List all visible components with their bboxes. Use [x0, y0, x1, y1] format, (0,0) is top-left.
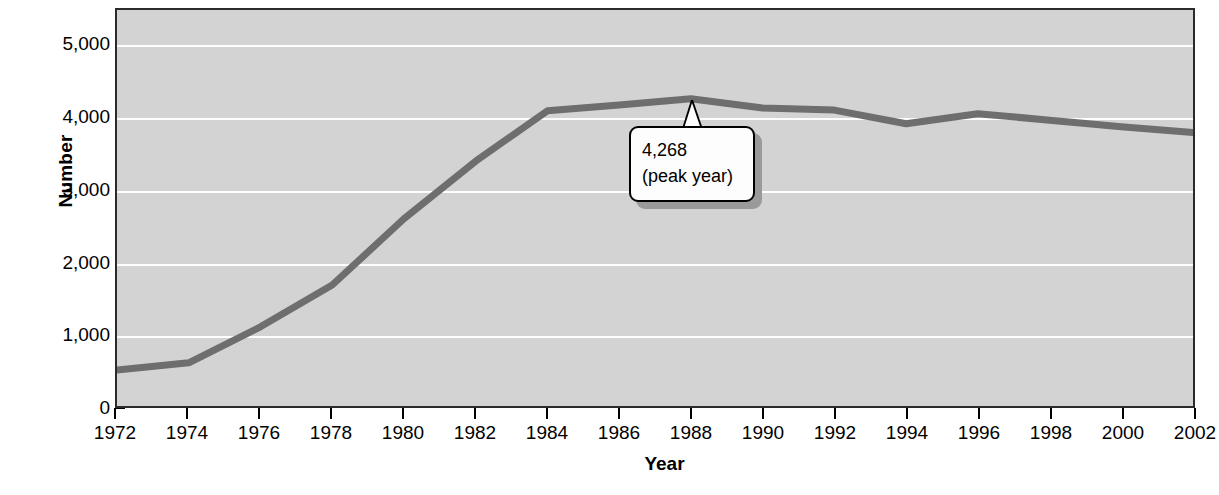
x-tick-mark-1974	[186, 408, 188, 419]
x-tick-mark-1986	[618, 408, 620, 419]
x-tick-label-1990: 1990	[723, 422, 803, 444]
x-tick-label-1988: 1988	[651, 422, 731, 444]
x-tick-mark-1990	[762, 408, 764, 419]
x-tick-mark-1998	[1050, 408, 1052, 419]
callout-value: 4,268	[642, 137, 753, 163]
x-tick-mark-2002	[1194, 408, 1196, 419]
x-tick-mark-2000	[1122, 408, 1124, 419]
x-tick-label-1974: 1974	[147, 422, 227, 444]
x-tick-mark-1980	[402, 408, 404, 419]
x-tick-label-2000: 2000	[1083, 422, 1163, 444]
x-tick-mark-1982	[474, 408, 476, 419]
x-tick-label-1972: 1972	[75, 422, 155, 444]
x-tick-mark-1996	[978, 408, 980, 419]
y-tick-label: 2,000	[32, 253, 110, 272]
y-tick-label: 5,000	[32, 34, 110, 53]
x-tick-mark-1994	[906, 408, 908, 419]
x-tick-label-1984: 1984	[507, 422, 587, 444]
y-tick-label: 4,000	[32, 107, 110, 126]
x-tick-label-1982: 1982	[435, 422, 515, 444]
x-tick-mark-1978	[330, 408, 332, 419]
x-tick-mark-1988	[690, 408, 692, 419]
x-tick-label-1998: 1998	[1011, 422, 1091, 444]
x-tick-label-1980: 1980	[363, 422, 443, 444]
x-tick-mark-1976	[258, 408, 260, 419]
x-tick-mark-1984	[546, 408, 548, 419]
x-tick-label-1996: 1996	[939, 422, 1019, 444]
x-tick-label-1992: 1992	[795, 422, 875, 444]
x-tick-label-1986: 1986	[579, 422, 659, 444]
x-tick-mark-1992	[834, 408, 836, 419]
y-axis-title: Number	[55, 111, 77, 231]
y-tick-label: 1,000	[32, 325, 110, 344]
x-tick-label-2002: 2002	[1155, 422, 1219, 444]
callout-note: (peak year)	[642, 163, 753, 189]
x-tick-mark-1972	[114, 408, 116, 419]
chart-figure: Number 01,0002,0003,0004,0005,000 197219…	[0, 0, 1219, 495]
y-tick-label: 0	[32, 398, 110, 417]
x-tick-label-1994: 1994	[867, 422, 947, 444]
y-tick-label: 3,000	[32, 180, 110, 199]
x-axis-title: Year	[0, 453, 1219, 475]
peak-year-callout: 4,268 (peak year)	[629, 126, 755, 202]
x-tick-label-1978: 1978	[291, 422, 371, 444]
x-tick-label-1976: 1976	[219, 422, 299, 444]
callout-box: 4,268 (peak year)	[629, 126, 755, 202]
